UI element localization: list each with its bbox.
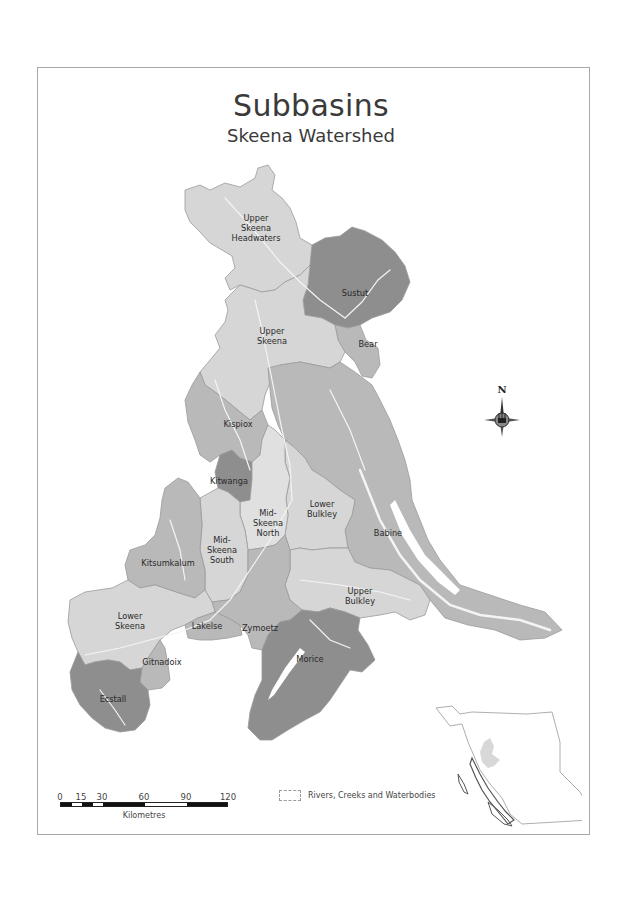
svg-text:Morice: Morice bbox=[296, 654, 323, 664]
legend-label-rivers: Rivers, Creeks and Waterbodies bbox=[308, 791, 435, 800]
scale-tick: 15 bbox=[76, 792, 87, 802]
svg-text:Bear: Bear bbox=[358, 339, 378, 349]
svg-text:Babine: Babine bbox=[374, 528, 402, 538]
svg-text:Sustut: Sustut bbox=[342, 288, 369, 298]
compass-rose-icon: N bbox=[482, 383, 522, 443]
svg-text:Lakelse: Lakelse bbox=[192, 621, 223, 631]
scale-tick: 0 bbox=[57, 792, 62, 802]
region-kitsumkalum[interactable] bbox=[125, 478, 205, 598]
scale-tick: 60 bbox=[139, 792, 150, 802]
svg-text:Gitnadoix: Gitnadoix bbox=[142, 657, 182, 667]
svg-text:Ecstall: Ecstall bbox=[100, 694, 127, 704]
svg-text:Zymoetz: Zymoetz bbox=[242, 623, 278, 633]
dashed-outline-swatch-icon bbox=[279, 790, 301, 801]
north-arrow: N bbox=[482, 383, 522, 447]
svg-text:UpperBulkley: UpperBulkley bbox=[345, 586, 375, 606]
svg-text:UpperSkeena: UpperSkeena bbox=[257, 326, 287, 346]
scale-unit-label: Kilometres bbox=[60, 811, 228, 820]
scale-tick: 90 bbox=[181, 792, 192, 802]
svg-text:N: N bbox=[497, 384, 506, 395]
svg-text:Kispiox: Kispiox bbox=[224, 419, 253, 429]
svg-text:Kitwanga: Kitwanga bbox=[210, 476, 248, 486]
bc-outline-map-icon bbox=[432, 702, 582, 837]
legend: Rivers, Creeks and Waterbodies bbox=[279, 790, 435, 801]
svg-text:Kitsumkalum: Kitsumkalum bbox=[141, 558, 194, 568]
scale-tick: 120 bbox=[220, 792, 236, 802]
svg-text:LowerSkeena: LowerSkeena bbox=[115, 611, 145, 631]
region-sustut[interactable] bbox=[303, 227, 410, 328]
scale-tick: 30 bbox=[97, 792, 108, 802]
svg-text:LowerBulkley: LowerBulkley bbox=[307, 499, 337, 519]
scale-bar-graphic bbox=[60, 802, 228, 807]
inset-locator-map bbox=[432, 702, 582, 841]
